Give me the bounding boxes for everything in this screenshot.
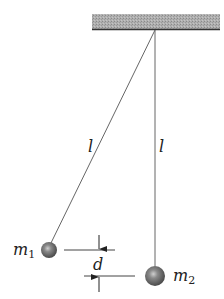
left-string-length-label: l — [88, 137, 93, 156]
left-string — [50, 30, 155, 245]
right-string-length-label: l — [159, 137, 164, 156]
mass-2-ball — [145, 266, 165, 286]
mass-2-label: m2 — [173, 266, 195, 287]
mass-1-ball — [41, 242, 57, 258]
ceiling-block — [92, 14, 220, 29]
ceiling — [92, 14, 220, 30]
separation-dimension: d — [64, 235, 135, 292]
pendulum-diagram: l l m1 m2 d — [0, 0, 224, 299]
separation-label: d — [93, 255, 103, 274]
mass-1-label: m1 — [13, 240, 35, 261]
